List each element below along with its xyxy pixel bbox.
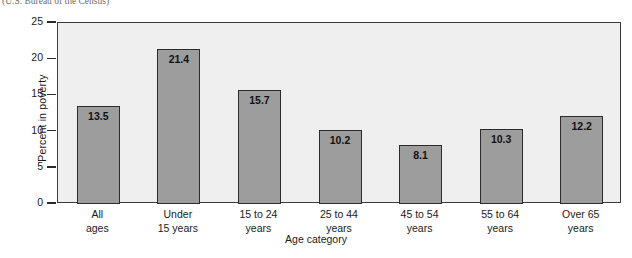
x-category-label: Allages [57,208,138,235]
x-category-label: 55 to 64years [460,208,541,235]
x-axis-title: Age category [0,233,632,245]
bar[interactable]: 13.5 [77,106,120,204]
x-category-label-line1: Under [164,208,193,220]
y-tick-label: 15 [31,87,43,99]
bar[interactable]: 15.7 [238,90,281,204]
bar[interactable]: 12.2 [560,116,603,204]
x-category-label: 25 to 44years [299,208,380,235]
x-category-label: 45 to 54years [379,208,460,235]
y-tick-mark [47,94,56,95]
y-tick-label: 25 [31,15,43,27]
bar-value-label: 10.3 [481,133,522,145]
bar[interactable]: 21.4 [157,49,200,204]
y-tick-mark [47,21,56,22]
bar[interactable]: 10.3 [480,129,523,204]
bar[interactable]: 10.2 [319,130,362,204]
bar[interactable]: 8.1 [399,145,442,204]
x-category-label: Over 65years [540,208,621,235]
y-tick-label: 5 [37,160,43,172]
x-category-label: Under15 years [138,208,219,235]
bar-value-label: 12.2 [561,120,602,132]
y-tick-mark [47,130,56,131]
x-category-label-line1: 55 to 64 [481,208,519,220]
y-tick-mark [47,58,56,59]
x-category-label-line1: 25 to 44 [320,208,358,220]
bar-chart-figure: Percent in poverty 25 20 15 10 5 0 13.52… [0,0,632,258]
x-category-label-line1: All [91,208,103,220]
bar-value-label: 10.2 [320,134,361,146]
plot-area: 13.521.415.710.28.110.312.2 [57,22,621,203]
x-category-label-line1: Over 65 [562,208,599,220]
x-category-label: 15 to 24years [218,208,299,235]
y-tick-label: 0 [37,196,43,208]
bar-value-label: 21.4 [158,53,199,65]
bar-value-label: 15.7 [239,94,280,106]
x-category-label-line1: 15 to 24 [239,208,277,220]
y-tick-mark [47,166,56,167]
y-tick-mark [47,202,56,203]
y-tick-label: 20 [31,51,43,63]
x-category-label-line1: 45 to 54 [401,208,439,220]
y-tick-label: 10 [31,124,43,136]
bar-value-label: 8.1 [400,149,441,161]
bar-value-label: 13.5 [78,110,119,122]
